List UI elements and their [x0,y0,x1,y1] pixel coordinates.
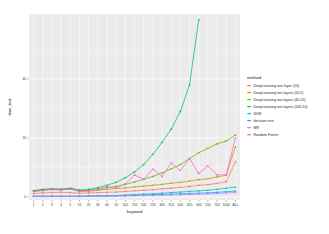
series-point [207,165,209,167]
x-tick-label: 100 [122,203,128,207]
series-point [88,190,90,192]
series-point [152,153,154,155]
series-point [170,194,172,196]
series-point [124,187,126,189]
chart-figure: 1234510203040501001502002503003504004505… [0,0,329,234]
series-point [115,186,117,188]
series-point [170,187,172,189]
series-point [134,195,136,197]
series-point [216,183,218,185]
series-point [216,193,218,195]
series-point [143,178,145,180]
series-point [161,188,163,190]
series-point [152,184,154,186]
x-tick-label: 1 [33,203,35,207]
legend-swatch-point [248,92,250,94]
series-point [106,189,108,191]
series-point [79,196,81,198]
series-point [124,195,126,197]
series-point [60,189,62,191]
legend-swatch-point [248,99,250,101]
series-point [143,189,145,191]
series-point [180,111,182,113]
series-point [189,158,191,160]
series-point [207,184,209,186]
series-point [216,176,218,178]
series-point [189,84,191,86]
series-point [152,168,154,170]
series-point [161,176,163,178]
series-point [225,140,227,142]
series-point [198,19,200,21]
series-point [42,196,44,198]
series-point [97,189,99,191]
series-point [134,190,136,192]
series-point [51,196,53,198]
legend-label: DeepLearning two layers (100,10) [253,105,307,109]
series-point [225,174,227,176]
x-tick-label: 200 [141,203,147,207]
y-tick-label: 20 [22,136,26,140]
series-point [180,164,182,166]
series-point [198,152,200,154]
series-point [161,142,163,144]
series-point [79,192,81,194]
series-point [189,191,191,193]
series-point [88,195,90,197]
x-tick-label: 550 [205,203,211,207]
series-point [124,177,126,179]
series-point [216,174,218,176]
series-point [235,137,237,139]
legend-label: DeepLearning one layer (10) [253,84,299,88]
series-point [134,186,136,188]
series-point [170,168,172,170]
series-point [170,162,172,164]
legend-label: decision tree [253,119,273,123]
legend-label: DeepLearning two layers (40,10) [253,98,305,102]
series-point [170,128,172,130]
series-point [180,191,182,193]
x-tick-label: 40 [105,203,109,207]
x-tick-label: 400 [178,203,184,207]
legend: methodDeepLearning one layer (10)DeepLea… [247,75,308,138]
x-tick-label: 150 [132,203,138,207]
series-point [180,186,182,188]
series-point [88,189,90,191]
series-point [207,178,209,180]
legend-label: MR [253,126,259,130]
series-point [97,192,99,194]
legend-swatch-point [248,106,250,108]
series-point [134,174,136,176]
series-point [60,196,62,198]
series-point [235,191,237,193]
y-tick-label: 0 [24,195,26,199]
x-tick-label: 700 [214,203,220,207]
series-point [97,187,99,189]
series-point [79,189,81,191]
series-point [161,184,163,186]
series-point [60,191,62,193]
legend-label: Random Forest [253,133,278,137]
series-point [235,161,237,163]
x-tick-label: 20 [87,203,91,207]
x-tick-label: 250 [150,203,156,207]
x-axis-title: keyword [127,209,143,214]
legend-label: SVM [253,112,261,116]
series-point [33,191,35,193]
series-point [51,192,53,194]
y-tick-label: 40 [22,77,26,81]
series-point [106,195,108,197]
series-point [198,193,200,195]
x-tick-label: 500 [196,203,202,207]
series-point [134,171,136,173]
series-point [69,196,71,198]
legend-swatch-point [248,127,250,129]
series-point [235,146,237,148]
legend-label: DeepLearning two layers (10,5) [253,91,303,95]
x-tick-label: 450 [187,203,193,207]
series-point [106,186,108,188]
series-point [207,193,209,195]
x-tick-label: 5 [69,203,71,207]
series-point [106,184,108,186]
series-point [124,183,126,185]
